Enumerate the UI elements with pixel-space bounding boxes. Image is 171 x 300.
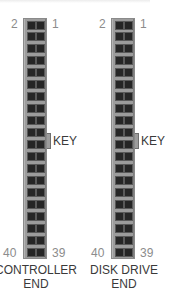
pin	[37, 201, 44, 208]
pin	[116, 189, 123, 196]
pin	[116, 22, 123, 29]
pin	[125, 117, 132, 124]
pin	[116, 213, 123, 220]
pin	[116, 81, 123, 88]
pin	[116, 45, 123, 52]
pin	[116, 249, 123, 256]
pin	[37, 249, 44, 256]
pin-number-2: 2	[11, 18, 18, 30]
pin	[116, 129, 123, 136]
pin	[37, 213, 44, 220]
pin	[37, 141, 44, 148]
pin	[116, 225, 123, 232]
pin	[37, 57, 44, 64]
pin	[125, 57, 132, 64]
pin	[125, 33, 132, 40]
pin	[28, 213, 35, 220]
pin	[116, 57, 123, 64]
pin	[125, 69, 132, 76]
pin-number-39: 39	[140, 247, 153, 259]
pin	[116, 69, 123, 76]
pin	[125, 22, 132, 29]
pin	[28, 141, 35, 148]
clipped-title-strip	[0, 0, 150, 3]
pin	[37, 69, 44, 76]
pin	[28, 237, 35, 244]
key-label: KEY	[53, 135, 77, 147]
pin-number-40: 40	[91, 247, 104, 259]
pin	[28, 33, 35, 40]
pin	[28, 225, 35, 232]
key-notch	[47, 133, 51, 149]
key-notch	[135, 133, 139, 149]
pin	[116, 237, 123, 244]
pin	[116, 177, 123, 184]
end-label-line1: DISK DRIVE	[81, 263, 167, 277]
pin	[28, 249, 35, 256]
pin	[28, 45, 35, 52]
pin-number-2: 2	[99, 18, 106, 30]
controller-end-label: CONTROLLER END	[0, 263, 79, 291]
pin	[28, 93, 35, 100]
pin	[125, 81, 132, 88]
pin	[28, 105, 35, 112]
pin	[37, 225, 44, 232]
pin	[125, 45, 132, 52]
pin	[37, 22, 44, 29]
pin	[37, 105, 44, 112]
pin	[28, 69, 35, 76]
pin	[28, 117, 35, 124]
end-label-line2: END	[0, 277, 79, 291]
pin	[116, 105, 123, 112]
pin	[28, 153, 35, 160]
pin	[125, 153, 132, 160]
pin	[125, 93, 132, 100]
pin	[37, 189, 44, 196]
pin	[125, 237, 132, 244]
pin-number-39: 39	[52, 247, 65, 259]
pin	[125, 141, 132, 148]
pin	[125, 225, 132, 232]
pin	[28, 189, 35, 196]
end-label-line2: END	[81, 277, 167, 291]
pin-number-1: 1	[52, 18, 59, 30]
pin	[125, 165, 132, 172]
pin	[37, 33, 44, 40]
pin	[116, 117, 123, 124]
pin	[28, 57, 35, 64]
pin	[116, 153, 123, 160]
end-label-line1: CONTROLLER	[0, 263, 79, 277]
pin	[28, 165, 35, 172]
key-label: KEY	[141, 135, 165, 147]
pin	[37, 129, 44, 136]
pin-number-1: 1	[140, 18, 147, 30]
pin	[37, 237, 44, 244]
pin	[37, 177, 44, 184]
disk-drive-connector	[111, 18, 135, 259]
pin	[28, 177, 35, 184]
pin	[125, 129, 132, 136]
disk-drive-end-label: DISK DRIVE END	[81, 263, 167, 291]
pin	[125, 189, 132, 196]
pin	[28, 201, 35, 208]
pin	[116, 165, 123, 172]
pin	[37, 153, 44, 160]
pin	[37, 45, 44, 52]
pin	[28, 22, 35, 29]
pin	[28, 81, 35, 88]
pin	[125, 213, 132, 220]
pin	[116, 93, 123, 100]
pin	[125, 201, 132, 208]
pin	[37, 81, 44, 88]
controller-connector	[23, 18, 47, 259]
pin-number-40: 40	[3, 247, 16, 259]
pin	[37, 93, 44, 100]
pin	[125, 249, 132, 256]
pin	[125, 177, 132, 184]
pin	[28, 129, 35, 136]
pin	[125, 105, 132, 112]
pin	[116, 141, 123, 148]
pin	[37, 117, 44, 124]
pin	[116, 33, 123, 40]
pin	[116, 201, 123, 208]
